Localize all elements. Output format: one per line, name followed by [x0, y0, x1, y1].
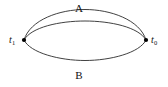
vertex-marker-group [22, 38, 148, 42]
vertex-label-t1: t1 [9, 35, 15, 45]
vertex-label-t0-subscript: 0 [154, 39, 157, 46]
vertex-marker-right [144, 38, 148, 42]
loop-diagram-canvas [0, 0, 168, 87]
arc-top-inner [24, 21, 146, 40]
vertex-label-t1-subscript: 1 [12, 39, 15, 46]
path-label-b: B [75, 70, 82, 81]
vertex-label-t0: t0 [151, 35, 157, 45]
vertex-marker-left [22, 38, 26, 42]
arc-bottom [24, 40, 146, 61]
curve-group [24, 10, 146, 61]
arc-top-outer [24, 10, 146, 41]
two-path-loop-figure: A B t1 t0 [0, 0, 168, 87]
path-label-a: A [75, 3, 83, 14]
